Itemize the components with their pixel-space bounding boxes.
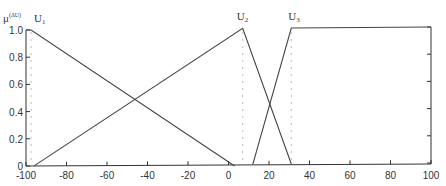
x-tick-label: -20 [181, 170, 196, 181]
y-tick-label: 1.0 [9, 25, 23, 36]
x-tick-label: 40 [304, 170, 316, 181]
x-tick-label: 0 [226, 170, 232, 181]
series-lines [26, 27, 431, 166]
series-labels: U1U2U3 [34, 10, 300, 26]
x-tick-label: 60 [344, 170, 356, 181]
series-line-u3 [253, 27, 431, 164]
series-line-u2 [34, 28, 291, 166]
series-label-u3: U3 [288, 10, 300, 24]
x-tick-label: -80 [59, 170, 74, 181]
x-tick-label: 20 [263, 170, 275, 181]
x-tick-label: -60 [100, 170, 115, 181]
y-tick-label: 0 [17, 161, 23, 172]
y-axis-label-superscript: (ΔU) [9, 12, 21, 19]
series-line-u1 [26, 30, 235, 166]
y-tick-label: 0.6 [9, 79, 23, 90]
series-label-u1: U1 [34, 12, 46, 26]
membership-function-chart: -100-80-60-40-2002040608010000.20.40.60.… [0, 0, 446, 186]
x-tick-label: 100 [423, 170, 440, 181]
y-tick-label: 0.4 [9, 107, 23, 118]
reference-lines [31, 32, 291, 165]
x-tick-label: -40 [140, 170, 155, 181]
x-tick-label: 80 [385, 170, 397, 181]
y-tick-label: 0.2 [9, 134, 23, 145]
y-tick-label: 0.8 [9, 52, 23, 63]
axes: -100-80-60-40-2002040608010000.20.40.60.… [9, 25, 440, 181]
series-label-u2: U2 [237, 10, 249, 24]
y-axis-label: μ(ΔU) [3, 12, 21, 24]
